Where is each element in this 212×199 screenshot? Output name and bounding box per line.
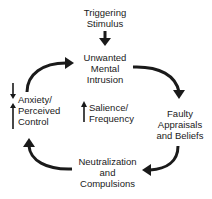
node-neutralization-compulsions: Neutralization and Compulsions: [70, 156, 145, 189]
node-faulty-appraisals: Faulty Appraisals and Beliefs: [150, 108, 210, 141]
arrow-anxiety-to-intrusion: [27, 57, 74, 92]
node-anxiety-perceived-control: Anxiety/ Perceived Control: [18, 94, 60, 127]
arrow-trigger-to-intrusion: [99, 31, 111, 46]
arrow-intrusion-to-appraisals: [133, 67, 185, 99]
anxiety-line-3: Control: [18, 116, 60, 127]
intrusion-line-1: Unwanted: [75, 52, 135, 63]
node-unwanted-mental-intrusion: Unwanted Mental Intrusion: [75, 52, 135, 85]
arrow-appraisals-to-neutralization: [142, 146, 178, 176]
salience-line-2: Frequency: [89, 113, 134, 124]
node-triggering-stimulus: Triggering Stimulus: [75, 7, 135, 29]
salience-up-arrow-icon: [81, 101, 87, 122]
node-salience-frequency: Salience/ Frequency: [89, 102, 134, 124]
intrusion-line-3: Intrusion: [75, 74, 135, 85]
arrow-neutralization-to-anxiety: [23, 138, 72, 169]
anxiety-down-arrow-icon: [10, 83, 16, 99]
neutralization-line-1: Neutralization: [70, 156, 145, 167]
salience-line-1: Salience/: [89, 102, 134, 113]
anxiety-line-1: Anxiety/: [18, 94, 60, 105]
anxiety-line-2: Perceived: [18, 105, 60, 116]
trigger-line-2: Stimulus: [75, 18, 135, 29]
appraisals-line-3: and Beliefs: [150, 130, 210, 141]
neutralization-line-2: and: [70, 167, 145, 178]
appraisals-line-2: Appraisals: [150, 119, 210, 130]
trigger-line-1: Triggering: [75, 7, 135, 18]
control-up-arrow-icon: [10, 103, 16, 129]
neutralization-line-3: Compulsions: [70, 178, 145, 189]
appraisals-line-1: Faulty: [150, 108, 210, 119]
intrusion-line-2: Mental: [75, 63, 135, 74]
